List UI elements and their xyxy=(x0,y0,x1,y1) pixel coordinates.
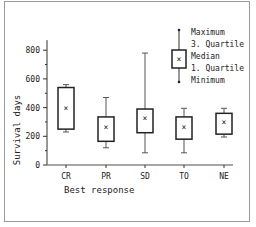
median-marker: × xyxy=(182,123,187,132)
y-axis-label: Survival days xyxy=(12,95,22,165)
x-axis-label: Best response xyxy=(64,185,134,195)
box-pr: × xyxy=(98,98,114,148)
median-marker: × xyxy=(64,104,69,113)
legend-item: Median xyxy=(191,52,220,61)
legend: ×Maximum3. QuartileMedian1. QuartileMini… xyxy=(172,28,244,85)
x-tick-label: PR xyxy=(101,172,111,181)
legend-item: Maximum xyxy=(191,28,225,37)
median-marker: × xyxy=(222,118,227,127)
box-cr: × xyxy=(58,85,74,132)
y-tick-label: 200 xyxy=(26,132,41,141)
x-tick-label: CR xyxy=(61,172,71,181)
x-tick-label: TO xyxy=(179,172,189,181)
legend-median-marker: × xyxy=(177,55,182,64)
x-tick-label: NE xyxy=(219,172,229,181)
legend-item: 3. Quartile xyxy=(191,40,244,49)
x-tick-label: SD xyxy=(140,172,150,181)
y-tick-label: 0 xyxy=(35,161,40,170)
y-tick-label: 400 xyxy=(26,104,41,113)
legend-item: Minimum xyxy=(191,76,225,85)
y-tick-label: 800 xyxy=(26,46,41,55)
box-to: × xyxy=(176,108,192,152)
x-axis: CRPRSDTONE xyxy=(47,165,233,181)
y-tick-label: 600 xyxy=(26,75,41,84)
median-marker: × xyxy=(143,114,148,123)
box-plot-chart: 0200400600800 CRPRSDTONE ××××× ×Maximum3… xyxy=(0,0,256,227)
median-marker: × xyxy=(104,123,109,132)
box-sd: × xyxy=(137,53,153,153)
legend-item: 1. Quartile xyxy=(191,64,244,73)
box-ne: × xyxy=(216,108,232,137)
y-axis: 0200400600800 xyxy=(26,40,47,170)
